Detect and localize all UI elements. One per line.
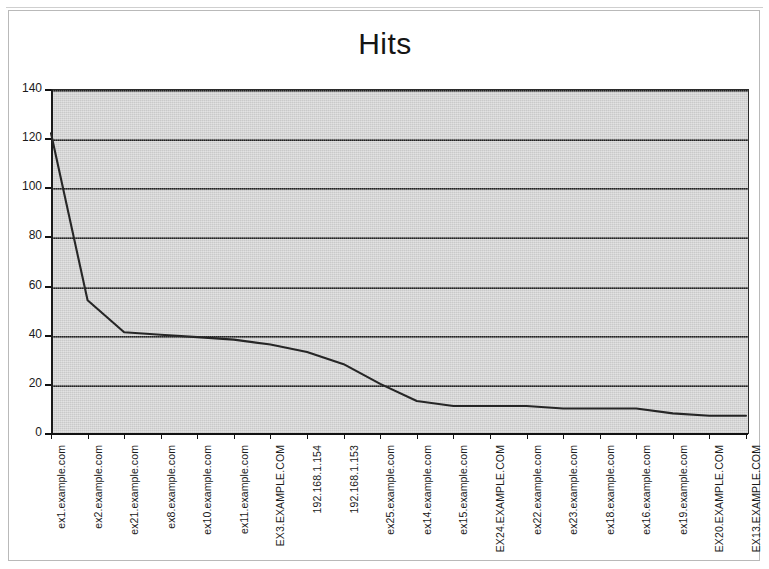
x-tick-label-2: ex21.example.com (128, 445, 140, 535)
x-tick-mark-9 (380, 433, 381, 439)
plot-texture (53, 90, 748, 434)
x-tick-label-14: ex23.example.com (567, 445, 579, 535)
y-tick-label-80: 80 (9, 228, 42, 242)
x-tick-mark-14 (563, 433, 564, 439)
chart-frame: Hits 020406080100120140 ex1.example.come… (8, 10, 760, 561)
x-tick-mark-6 (270, 433, 271, 439)
x-tick-label-19: EX13.EXAMPLE.COM (750, 445, 762, 552)
y-tick-label-120: 120 (9, 130, 42, 144)
x-tick-label-8: 192.168.1.153 (348, 445, 360, 513)
chart-title: Hits (9, 27, 761, 61)
plot-area (51, 89, 749, 434)
x-tick-label-7: 192.168.1.154 (311, 445, 323, 513)
gridline-140 (53, 90, 748, 92)
y-tick-label-20: 20 (9, 376, 42, 390)
x-tick-label-5: ex11.example.com (238, 445, 250, 534)
x-tick-mark-7 (307, 433, 308, 439)
x-tick-label-18: EX20.EXAMPLE.COM (713, 445, 725, 552)
y-tick-label-40: 40 (9, 327, 42, 341)
x-tick-label-3: ex8.example.com (165, 445, 177, 529)
x-tick-label-0: ex1.example.com (55, 445, 67, 529)
x-tick-mark-18 (709, 433, 710, 439)
x-tick-label-15: ex18.example.com (604, 445, 616, 535)
gridline-100 (53, 188, 748, 190)
x-axis-line (51, 433, 748, 435)
x-tick-label-11: ex15.example.com (457, 445, 469, 535)
x-tick-mark-13 (527, 433, 528, 439)
x-tick-mark-3 (161, 433, 162, 439)
x-tick-mark-2 (124, 433, 125, 439)
gridline-20 (53, 385, 748, 387)
gridline-60 (53, 287, 748, 289)
x-tick-mark-11 (453, 433, 454, 439)
x-tick-mark-10 (417, 433, 418, 439)
x-tick-label-17: ex19.example.com (677, 445, 689, 535)
x-tick-label-1: ex2.example.com (92, 445, 104, 529)
y-tick-label-60: 60 (9, 278, 42, 292)
x-tick-mark-1 (88, 433, 89, 439)
x-tick-mark-17 (673, 433, 674, 439)
x-tick-label-16: ex16.example.com (640, 445, 652, 535)
x-tick-mark-5 (234, 433, 235, 439)
x-tick-mark-8 (344, 433, 345, 439)
x-tick-label-10: ex14.example.com (421, 445, 433, 535)
x-tick-label-12: EX24.EXAMPLE.COM (494, 445, 506, 552)
x-tick-label-13: ex22.example.com (531, 445, 543, 535)
x-tick-mark-4 (197, 433, 198, 439)
x-tick-label-9: ex25.example.com (384, 445, 396, 535)
x-tick-label-4: ex10.example.com (201, 445, 213, 535)
x-tick-mark-0 (51, 433, 52, 439)
gridline-80 (53, 237, 748, 239)
x-tick-label-6: EX3.EXAMPLE.COM (274, 445, 286, 546)
x-tick-mark-19 (746, 433, 747, 439)
gridline-40 (53, 336, 748, 338)
y-tick-label-140: 140 (9, 81, 42, 95)
gridline-120 (53, 139, 748, 141)
y-tick-label-0: 0 (9, 425, 42, 439)
scan-top-edge (0, 0, 769, 10)
x-tick-mark-16 (636, 433, 637, 439)
x-tick-mark-12 (490, 433, 491, 439)
y-tick-label-100: 100 (9, 179, 42, 193)
x-tick-mark-15 (600, 433, 601, 439)
